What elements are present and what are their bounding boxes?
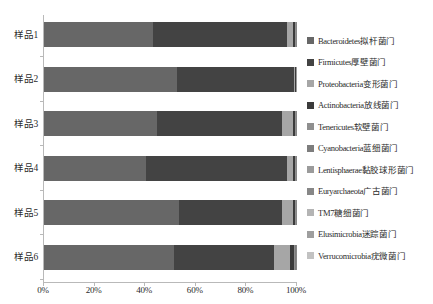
- y-axis-label: 样品4: [0, 163, 38, 173]
- legend-label: Euryarchaeota广古菌门: [318, 186, 398, 196]
- x-axis-label: 0%: [37, 285, 49, 295]
- bar-segment: [282, 111, 294, 136]
- bar-segment: [44, 111, 157, 136]
- y-axis-tick: [40, 279, 43, 280]
- stacked-bar-chart: 样品1样品2样品3样品4样品5样品6 0%20%40%60%80%100% Ba…: [0, 0, 433, 304]
- x-axis-label: 100%: [286, 285, 306, 295]
- y-axis-label: 样品1: [0, 30, 38, 40]
- x-axis-labels: 0%20%40%60%80%100%: [43, 285, 303, 301]
- legend-swatch-icon: [307, 123, 314, 130]
- legend-item[interactable]: TM7糖细菌门: [307, 202, 433, 224]
- legend-swatch-icon: [307, 102, 314, 109]
- y-axis-tick: [40, 190, 43, 191]
- bar-segment: [146, 156, 286, 181]
- legend-swatch-icon: [307, 188, 314, 195]
- y-axis-line: [43, 15, 44, 283]
- legend-item[interactable]: Tenericutes软壁菌门: [307, 116, 433, 138]
- bar-segment: [177, 67, 294, 92]
- bar-row: [44, 111, 297, 136]
- y-axis-tick: [40, 145, 43, 146]
- legend-item[interactable]: Elusimicrobia迷踪菌门: [307, 224, 433, 246]
- x-axis-label: 20%: [86, 285, 102, 295]
- legend-swatch-icon: [307, 252, 314, 259]
- legend-item[interactable]: Proteobacteria变形菌门: [307, 73, 433, 95]
- legend-label: Verrucomicrobia疣微菌门: [318, 251, 405, 261]
- legend: Bacteroidetes拟杆菌门Firmicutes厚壁菌门Proteobac…: [307, 30, 433, 267]
- legend-swatch-icon: [307, 231, 314, 238]
- y-axis-tick: [40, 56, 43, 57]
- bar-segment: [282, 200, 294, 225]
- bar-segment: [44, 200, 179, 225]
- legend-label: Firmicutes厚壁菌门: [318, 57, 386, 67]
- legend-item[interactable]: Verrucomicrobia疣微菌门: [307, 245, 433, 267]
- bar-row: [44, 245, 297, 270]
- y-axis-tick: [40, 234, 43, 235]
- legend-label: TM7糖细菌门: [318, 208, 369, 218]
- legend-item[interactable]: Lentisphaerae黏胶球形菌门: [307, 159, 433, 181]
- bar-row: [44, 156, 297, 181]
- bar-row: [44, 67, 297, 92]
- legend-swatch-icon: [307, 209, 314, 216]
- legend-swatch-icon: [307, 59, 314, 66]
- legend-item[interactable]: Bacteroidetes拟杆菌门: [307, 30, 433, 52]
- legend-label: Lentisphaerae黏胶球形菌门: [318, 165, 414, 175]
- x-axis-line: [43, 282, 297, 283]
- legend-swatch-icon: [307, 37, 314, 44]
- y-axis-label: 样品3: [0, 119, 38, 129]
- y-axis-label: 样品5: [0, 208, 38, 218]
- bar-segment: [44, 245, 174, 270]
- legend-label: Elusimicrobia迷踪菌门: [318, 229, 397, 239]
- x-axis-label: 60%: [187, 285, 203, 295]
- legend-label: Actinobacteria放线菌门: [318, 100, 399, 110]
- bar-segment: [174, 245, 274, 270]
- bar-segment: [44, 67, 177, 92]
- bar-segment: [274, 245, 290, 270]
- legend-label: Bacteroidetes拟杆菌门: [318, 36, 395, 46]
- bar-segment: [179, 200, 281, 225]
- bar-row: [44, 200, 297, 225]
- y-axis-label: 样品6: [0, 252, 38, 262]
- x-axis-label: 80%: [237, 285, 253, 295]
- bar-segment: [44, 156, 146, 181]
- legend-swatch-icon: [307, 80, 314, 87]
- legend-item[interactable]: Actinobacteria放线菌门: [307, 95, 433, 117]
- y-axis-labels: 样品1样品2样品3样品4样品5样品6: [0, 15, 41, 283]
- legend-item[interactable]: Euryarchaeota广古菌门: [307, 181, 433, 203]
- legend-swatch-icon: [307, 166, 314, 173]
- legend-item[interactable]: Firmicutes厚壁菌门: [307, 52, 433, 74]
- x-axis-label: 40%: [136, 285, 152, 295]
- bar-row: [44, 22, 297, 47]
- legend-label: Cyanobacteria蓝细菌门: [318, 143, 398, 153]
- legend-swatch-icon: [307, 145, 314, 152]
- plot-area: [43, 15, 296, 283]
- bar-segment: [157, 111, 282, 136]
- y-axis-tick: [40, 101, 43, 102]
- bar-segment: [44, 22, 153, 47]
- bar-segment: [153, 22, 287, 47]
- legend-label: Tenericutes软壁菌门: [318, 122, 389, 132]
- legend-item[interactable]: Cyanobacteria蓝细菌门: [307, 138, 433, 160]
- y-axis-label: 样品2: [0, 74, 38, 84]
- legend-label: Proteobacteria变形菌门: [318, 79, 398, 89]
